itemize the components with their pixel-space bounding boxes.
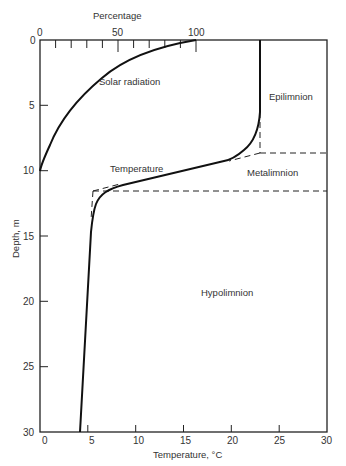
pct-tick-100: 100 — [188, 27, 205, 38]
percentage-axis-label: Percentage — [93, 10, 142, 21]
temp-tick-30: 30 — [321, 435, 333, 446]
temp-tick-10: 10 — [133, 435, 145, 446]
temp-tick-20: 20 — [227, 435, 239, 446]
depth-tick-15: 15 — [23, 231, 35, 242]
solar-radiation-curve — [40, 40, 196, 171]
depth-tick-10: 10 — [23, 165, 35, 176]
depth-axis-ticks — [40, 105, 48, 366]
depth-tick-30: 30 — [23, 427, 35, 438]
depth-tick-25: 25 — [23, 361, 35, 372]
temperature-curve — [80, 40, 260, 432]
temp-tick-5: 5 — [89, 435, 95, 446]
hypolimnion-label: Hypolimnion — [201, 287, 253, 298]
epilimnion-label: Epilimnion — [269, 91, 313, 102]
temp-tick-25: 25 — [274, 435, 286, 446]
temperature-axis-label: Temperature, °C — [153, 449, 222, 460]
percentage-axis-ticks — [56, 40, 196, 52]
metalimnion-label: Metalimnion — [247, 167, 298, 178]
depth-tick-5: 5 — [29, 100, 35, 111]
temperature-label: Temperature — [110, 163, 163, 174]
depth-axis-label: Depth, m — [10, 219, 21, 258]
depth-tick-20: 20 — [23, 296, 35, 307]
solar-radiation-label: Solar radiation — [99, 76, 160, 87]
pct-tick-0: 0 — [37, 27, 43, 38]
temp-tick-0: 0 — [42, 435, 48, 446]
temperature-axis-ticks — [88, 425, 279, 432]
pct-tick-50: 50 — [112, 27, 124, 38]
temp-tick-15: 15 — [180, 435, 192, 446]
lake-stratification-chart: 0 50 100 Percentage 0 5 10 15 20 25 30 T… — [0, 0, 346, 466]
